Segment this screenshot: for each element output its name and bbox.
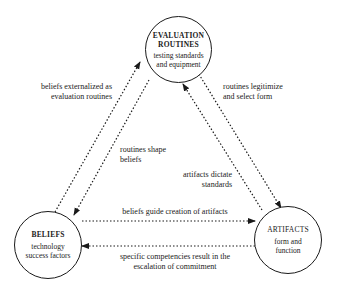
diagram: EVALUATION ROUTINES testing standards an… <box>0 0 338 288</box>
node-subtitle: success factors <box>26 251 71 260</box>
label-artifacts-to-beliefs: specific competencies result in the esca… <box>90 252 260 272</box>
node-subtitle: form and <box>274 237 301 246</box>
label-beliefs-to-artifacts: beliefs guide creation of artifacts <box>100 207 250 217</box>
node-subtitle: and equipment <box>156 60 200 69</box>
node-title: ROUTINES <box>158 40 199 49</box>
label-evaluation-to-beliefs: routines shape beliefs <box>120 145 166 165</box>
node-title: EVALUATION <box>153 31 204 40</box>
arrow-artifacts-to-evaluation <box>183 84 262 210</box>
label-artifacts-to-evaluation: artifacts dictate standards <box>183 170 232 190</box>
node-title: ARTIFACTS <box>267 225 309 234</box>
node-subtitle: testing standards <box>153 51 203 60</box>
node-evaluation-routines: EVALUATION ROUTINES testing standards an… <box>145 16 212 83</box>
node-beliefs: BELIEFS technology success factors <box>14 211 82 279</box>
node-subtitle: function <box>276 246 301 255</box>
node-title: BELIEFS <box>31 230 64 239</box>
label-evaluation-to-artifacts: routines legitimize and select form <box>223 82 283 102</box>
label-beliefs-to-evaluation: beliefs externalized as evaluation routi… <box>41 82 112 102</box>
node-artifacts: ARTIFACTS form and function <box>254 206 322 274</box>
node-subtitle: technology <box>31 242 64 251</box>
